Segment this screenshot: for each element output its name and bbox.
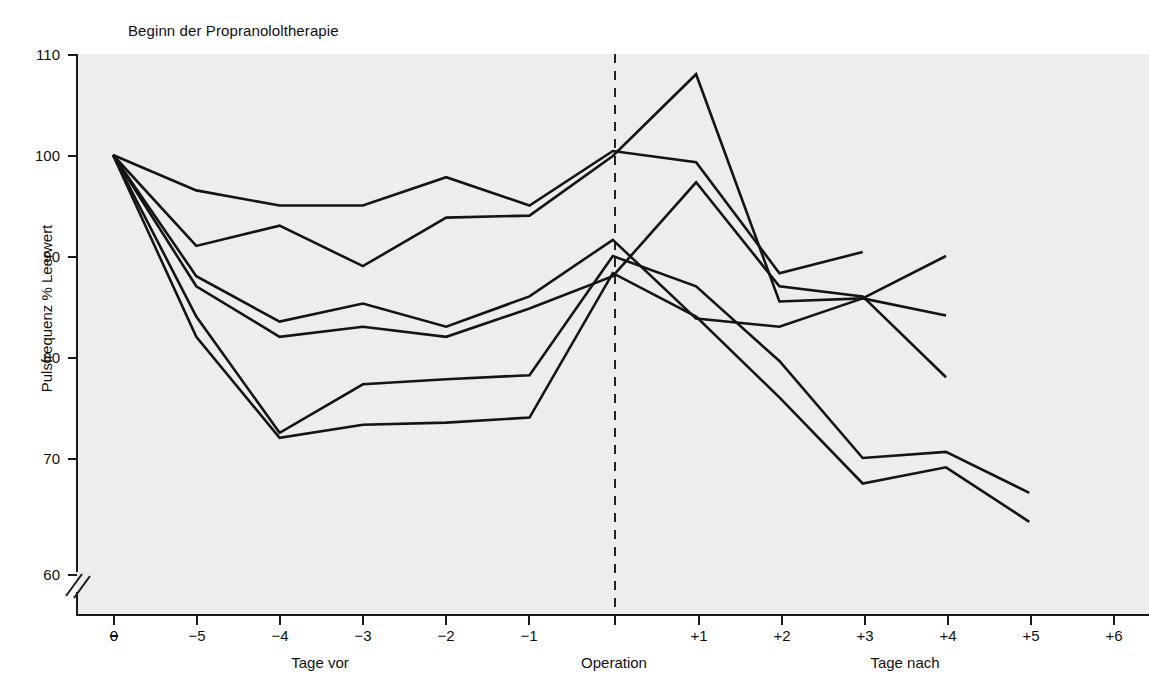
- x-group-label-operation: Operation: [514, 655, 714, 671]
- x-tick-label-0: 0: [84, 628, 144, 644]
- x-tick-label-plus6: +6: [1084, 628, 1144, 644]
- x-group-label-tage-nach: Tage nach: [805, 655, 1005, 671]
- figure-chart-pulsfrequenz: Beginn der Propranololtherapie 110 100 9…: [0, 0, 1149, 698]
- x-tick-minus1: [528, 616, 530, 625]
- x-axis-line: [76, 614, 1149, 616]
- x-tick-label-plus5: +5: [1001, 628, 1061, 644]
- x-tick-minus2: [445, 616, 447, 625]
- x-tick-0: [113, 616, 115, 625]
- x-tick-label-plus4: +4: [918, 628, 978, 644]
- x-tick-plus1: [698, 616, 700, 625]
- x-tick-label-minus3: −3: [333, 628, 393, 644]
- y-tick-label-110: 110: [18, 47, 60, 62]
- x-tick-minus3: [362, 616, 364, 625]
- x-tick-plus2: [781, 616, 783, 625]
- x-tick-minus5: [196, 616, 198, 625]
- x-tick-minus4: [279, 616, 281, 625]
- x-tick-operation: [614, 616, 616, 625]
- x-tick-label-plus1: +1: [669, 628, 729, 644]
- x-tick-label-minus1: −1: [499, 628, 559, 644]
- x-tick-plus4: [947, 616, 949, 625]
- x-tick-label-plus3: +3: [835, 628, 895, 644]
- x-tick-plus5: [1030, 616, 1032, 625]
- y-tick-110: [68, 54, 77, 56]
- x-tick-label-minus5: −5: [167, 628, 227, 644]
- y-tick-90: [68, 256, 77, 258]
- y-tick-label-100: 100: [18, 148, 60, 163]
- chart-title: Beginn der Propranololtherapie: [128, 22, 339, 39]
- y-tick-70: [68, 458, 77, 460]
- y-axis-break-icon: [62, 572, 94, 600]
- x-tick-plus3: [864, 616, 866, 625]
- y-tick-80: [68, 357, 77, 359]
- y-axis-title: Pulsfrequenz % Leerwert: [38, 189, 55, 429]
- x-tick-label-plus2: +2: [752, 628, 812, 644]
- y-axis-line: [76, 54, 78, 572]
- x-group-label-tage-vor: Tage vor: [220, 655, 420, 671]
- x-tick-label-minus2: −2: [416, 628, 476, 644]
- plot-area: [76, 54, 1149, 616]
- x-tick-plus6: [1113, 616, 1115, 625]
- y-tick-100: [68, 155, 77, 157]
- y-tick-label-60: 60: [18, 567, 60, 582]
- y-tick-label-70: 70: [18, 451, 60, 466]
- x-tick-label-minus4: −4: [250, 628, 310, 644]
